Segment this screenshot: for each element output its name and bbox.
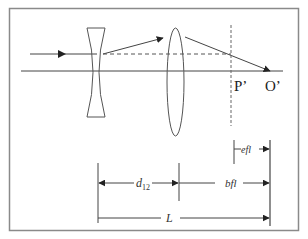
converging-lens — [167, 28, 184, 136]
L-label: L — [165, 211, 173, 225]
incoming-ray — [30, 50, 97, 58]
dim-bfl: bfl — [179, 177, 269, 189]
diverged-ray — [103, 38, 163, 54]
diagram-frame — [10, 9, 299, 231]
d12-label: d12 — [136, 176, 150, 192]
dim-efl: efl — [234, 144, 269, 155]
dim-d12: d12 — [99, 176, 178, 192]
d12-label-sub: 12 — [142, 183, 150, 192]
principal-point-label: P’ — [234, 78, 247, 94]
dim-L: L — [98, 211, 269, 225]
efl-label: efl — [241, 144, 251, 155]
focal-point-label: O’ — [265, 78, 281, 94]
bfl-label: bfl — [225, 177, 237, 189]
ray-arrow-icon — [58, 50, 66, 58]
diverging-lens — [87, 28, 105, 117]
optics-diagram: P’ O’ efl d12 bfl L — [0, 0, 308, 239]
